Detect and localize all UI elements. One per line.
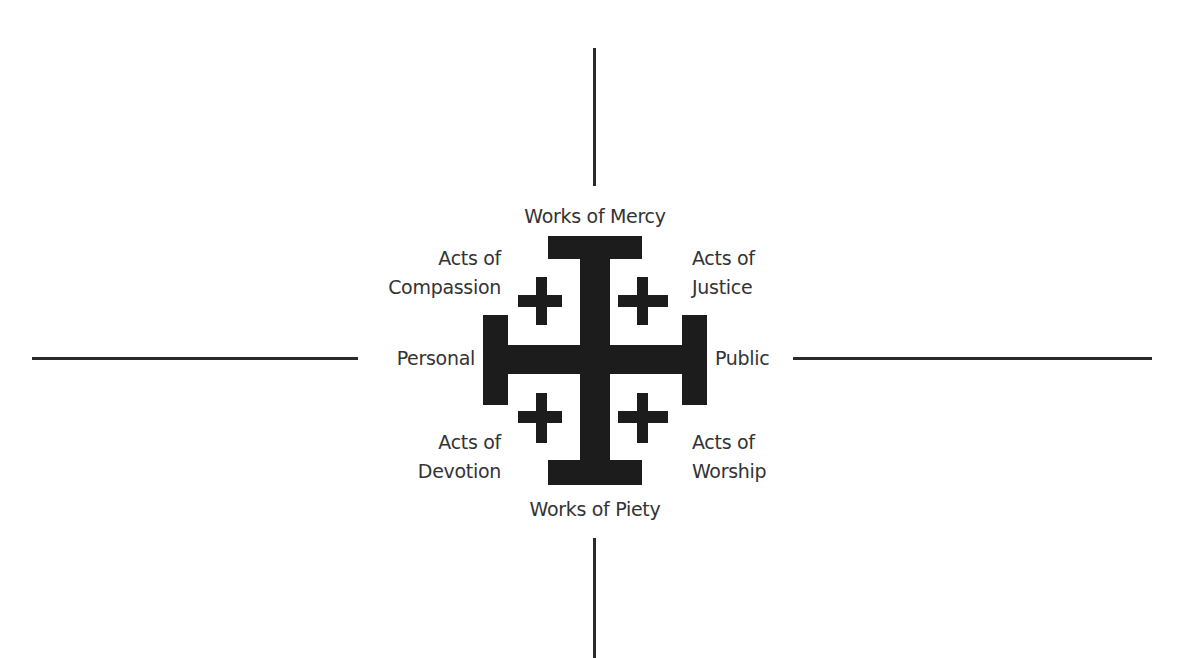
- label-left: Personal: [360, 344, 475, 373]
- axis-right-line: [793, 357, 1152, 360]
- axis-left-line: [32, 357, 358, 360]
- axis-bottom-line: [593, 538, 596, 658]
- cross-horizontal-bar: [483, 345, 707, 374]
- label-top: Works of Mercy: [495, 202, 695, 231]
- label-top-left: Acts of Compassion: [360, 244, 501, 302]
- cross-left-bar: [483, 315, 508, 405]
- label-bottom-left: Acts of Devotion: [360, 428, 501, 486]
- label-bottom: Works of Piety: [495, 495, 695, 524]
- axis-top-line: [593, 48, 596, 186]
- label-bottom-right: Acts of Worship: [692, 428, 766, 486]
- cross-right-bar: [682, 315, 707, 405]
- label-top-right: Acts of Justice: [692, 244, 755, 302]
- label-right: Public: [715, 344, 769, 373]
